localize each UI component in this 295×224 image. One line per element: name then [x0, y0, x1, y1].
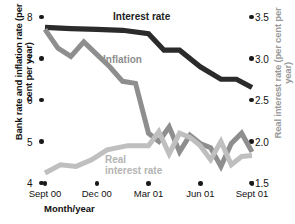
series-label-interest-rate: Interest rate: [113, 12, 170, 23]
chart-container: Bank rate and inflation rate (per cent p…: [0, 0, 295, 224]
series-line-interest-rate: [45, 27, 252, 87]
series-label-real-interest-rate: Real interest rate: [105, 155, 162, 177]
plot-area: [0, 0, 295, 224]
series-label-inflation: Inflation: [103, 55, 142, 66]
